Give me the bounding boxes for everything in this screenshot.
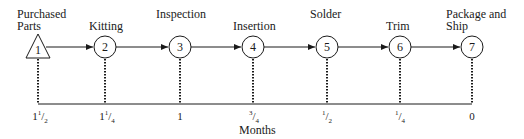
node-7-number: 7 [469,40,475,55]
axis-label-months: Months [239,124,276,137]
label-trim: Trim [386,20,410,33]
label-solder: Solder [310,8,341,21]
tick-1-1-2: 11/2 [32,110,48,122]
node-4-number: 4 [250,40,256,55]
label-kitting: Kitting [89,20,123,33]
label-parts: Parts [17,20,41,33]
node-2-number: 2 [102,40,108,55]
tick-1-1-4: 11/4 [99,110,115,122]
tick-3-4: 3/4 [249,110,259,122]
label-inspection: Inspection [156,8,206,21]
node-1-number: 1 [35,43,41,58]
tick-1: 1 [177,110,183,122]
node-3-number: 3 [177,40,183,55]
label-insertion: Insertion [233,20,276,33]
label-ship: Ship [446,20,468,33]
node-5-number: 5 [324,40,330,55]
node-6-number: 6 [397,40,403,55]
dotted-drop-lines [38,59,472,103]
tick-0: 0 [469,110,475,122]
tick-1-2: 1/2 [322,110,332,122]
tick-1-4: 1/4 [395,110,405,122]
